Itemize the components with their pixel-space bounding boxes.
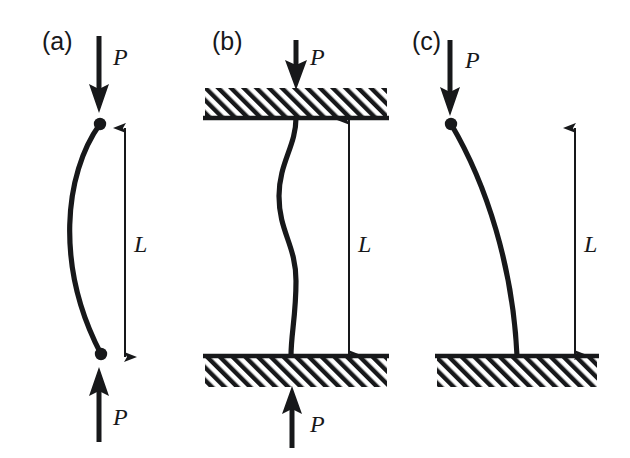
panel-a-label: (a) xyxy=(42,27,73,55)
panel-c-column xyxy=(451,124,517,356)
panel-b-top-load-label: P xyxy=(309,44,325,70)
panel-c-free-end-dot xyxy=(445,118,457,130)
buckling-figure: (a) P P L (b) xyxy=(0,0,630,458)
panel-b-label: (b) xyxy=(212,27,243,55)
support-block-b-top xyxy=(203,88,389,118)
panel-c: (c) P L xyxy=(412,27,599,387)
figure-canvas: (a) P P L (b) xyxy=(0,0,630,458)
panel-a-top-load-label: P xyxy=(112,44,128,70)
panel-b-top-load-arrow xyxy=(285,40,307,90)
panel-b-bottom-load-arrow xyxy=(282,386,302,448)
support-block-c-base xyxy=(435,356,599,387)
panel-b-column xyxy=(279,118,296,356)
panel-a-length-label: L xyxy=(133,231,147,257)
panel-b-length-label: L xyxy=(357,231,371,257)
panel-a-top-load-arrow xyxy=(89,36,109,113)
panel-c-top-load-arrow xyxy=(440,40,460,116)
panel-c-length-label: L xyxy=(583,231,597,257)
panel-a-bottom-load-label: P xyxy=(112,404,128,430)
panel-a: (a) P P L xyxy=(42,27,147,442)
support-block-b-bottom xyxy=(203,356,389,387)
panel-c-top-load-label: P xyxy=(464,47,480,73)
panel-a-top-pin xyxy=(94,118,106,130)
panel-b: (b) P P xyxy=(203,27,389,448)
panel-c-label: (c) xyxy=(412,27,441,55)
panel-b-bottom-load-label: P xyxy=(309,411,325,437)
panel-a-bottom-pin xyxy=(95,348,107,360)
panel-a-column xyxy=(70,124,101,354)
panel-a-bottom-load-arrow xyxy=(89,367,109,442)
